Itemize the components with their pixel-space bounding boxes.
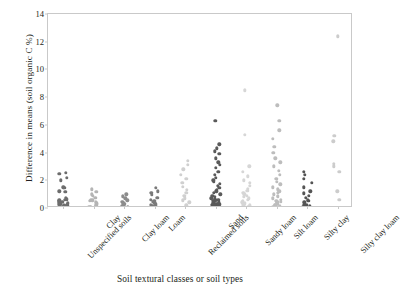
data-point <box>214 166 217 169</box>
data-point <box>303 173 306 176</box>
data-point <box>247 165 250 168</box>
data-point <box>338 198 341 201</box>
x-axis-tick-mark <box>63 206 64 209</box>
data-point <box>302 177 305 180</box>
data-point <box>279 198 282 201</box>
data-point <box>218 182 221 185</box>
data-point <box>218 152 221 155</box>
data-point <box>277 169 280 172</box>
x-axis-tick-mark <box>338 206 339 209</box>
y-axis-tick-mark <box>45 124 48 125</box>
data-point <box>179 173 182 176</box>
data-point <box>277 119 280 122</box>
data-point <box>332 140 335 143</box>
y-axis-tick-mark <box>45 14 48 15</box>
x-axis-title: Soil textural classes or soil types <box>0 274 360 284</box>
data-point <box>125 192 128 195</box>
data-point <box>272 165 275 168</box>
data-point <box>185 191 188 194</box>
data-point <box>335 190 338 193</box>
y-axis-tick-mark <box>45 208 48 209</box>
data-point <box>58 172 61 175</box>
x-axis-tick-label-sandy-loam: Sandy loam <box>264 213 298 247</box>
data-point <box>273 145 276 148</box>
data-point <box>218 143 221 146</box>
data-points-layer <box>48 14 351 206</box>
data-point <box>278 173 281 176</box>
data-point <box>248 204 251 206</box>
data-point <box>279 183 282 186</box>
data-point <box>213 149 216 152</box>
data-point <box>279 161 282 164</box>
data-point <box>218 163 221 166</box>
data-point <box>95 190 98 193</box>
data-point <box>309 190 312 193</box>
x-axis-tick-mark <box>307 206 308 209</box>
y-axis-tick-label: 14 <box>35 9 44 19</box>
data-point <box>185 188 188 191</box>
data-point <box>181 185 184 188</box>
data-point <box>248 184 251 187</box>
y-axis-title: Difference in means (soil organic C %) <box>24 13 34 203</box>
y-axis-tick-label: 0 <box>40 203 44 213</box>
data-point <box>241 170 244 173</box>
data-point <box>242 179 245 182</box>
data-point <box>246 174 249 177</box>
data-point <box>307 194 310 197</box>
data-point <box>90 188 93 191</box>
x-axis-tick-label-silty-clay: Silty clay <box>323 213 352 242</box>
data-point <box>187 201 190 204</box>
data-point <box>302 192 305 195</box>
data-point <box>271 137 274 140</box>
data-point <box>273 156 276 159</box>
y-axis-tick-label: 12 <box>35 37 44 47</box>
data-point <box>64 171 67 174</box>
data-point <box>155 196 158 199</box>
data-point <box>58 190 61 193</box>
y-axis-tick-label: 8 <box>40 92 44 102</box>
data-point <box>243 133 246 136</box>
x-axis-tick-mark <box>216 206 217 209</box>
data-point <box>217 170 220 173</box>
x-axis-tick-mark <box>277 206 278 209</box>
y-axis-tick-label: 2 <box>40 175 44 185</box>
x-axis-tick-label-loam: Loam <box>166 213 186 233</box>
data-point <box>214 176 217 179</box>
y-axis-tick-mark <box>45 41 48 42</box>
data-point <box>64 190 67 193</box>
data-point <box>183 197 186 200</box>
x-axis-tick-mark <box>155 206 156 209</box>
data-point <box>276 104 279 107</box>
data-point <box>271 186 274 189</box>
y-axis-tick-mark <box>45 152 48 153</box>
data-point <box>310 181 313 184</box>
data-point <box>271 151 274 154</box>
x-axis-tick-mark <box>185 206 186 209</box>
y-axis-tick-mark <box>45 97 48 98</box>
data-point <box>277 129 280 132</box>
data-point <box>332 162 335 165</box>
data-point <box>308 204 311 206</box>
data-point <box>182 167 185 170</box>
data-point <box>214 119 217 122</box>
x-axis-tick-mark <box>94 206 95 209</box>
y-axis-tick-label: 4 <box>40 148 44 158</box>
data-point <box>59 179 62 182</box>
plot-area: 02468101214Unspecified soilsClayClay loa… <box>47 13 352 207</box>
data-point <box>93 196 96 199</box>
data-point <box>126 199 129 202</box>
data-point <box>186 163 189 166</box>
data-point <box>185 177 188 180</box>
x-axis-tick-mark <box>124 206 125 209</box>
data-point <box>276 194 279 197</box>
x-axis-tick-mark <box>246 206 247 209</box>
y-axis-tick-mark <box>45 69 48 70</box>
data-point <box>246 187 249 190</box>
data-point <box>156 190 159 193</box>
y-axis-tick-label: 6 <box>40 120 44 130</box>
data-point <box>215 147 218 150</box>
data-point <box>243 89 246 92</box>
data-point <box>88 205 91 206</box>
data-point <box>218 192 221 195</box>
